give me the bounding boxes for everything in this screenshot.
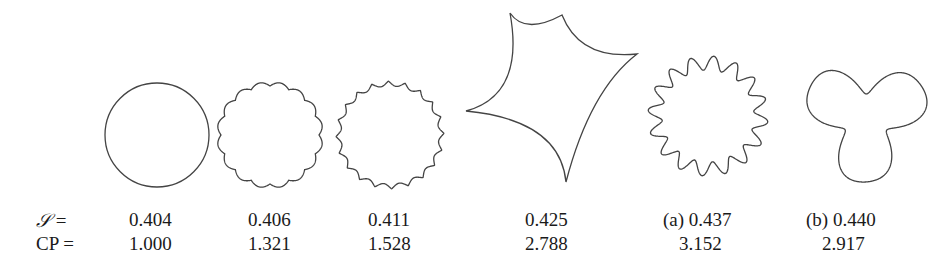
s-value-1: 0.404	[129, 209, 172, 231]
s-value-6: (b) 0.440	[806, 209, 876, 231]
shape-cusped	[336, 81, 444, 189]
cp-value-6: 2.917	[822, 233, 865, 255]
cp-value-2: 1.321	[248, 233, 291, 255]
cp-value-3: 1.528	[368, 233, 411, 255]
row-label-s: 𝒮 =	[36, 209, 66, 232]
s-value-5: (a) 0.437	[663, 209, 732, 231]
s-value-2: 0.406	[248, 209, 291, 231]
s-value-4: 0.425	[525, 209, 568, 231]
cp-value-4: 2.788	[525, 233, 568, 255]
cp-value-1: 1.000	[129, 233, 172, 255]
row-label-cp: CP =	[36, 233, 74, 255]
s-value-3: 0.411	[368, 209, 410, 231]
shape-trefoil	[807, 70, 927, 182]
shape-astroid	[466, 13, 637, 182]
shape-wavy	[648, 56, 767, 175]
shape-scalloped	[218, 83, 322, 187]
cp-value-5: 3.152	[679, 233, 722, 255]
shape-circle	[105, 83, 209, 187]
